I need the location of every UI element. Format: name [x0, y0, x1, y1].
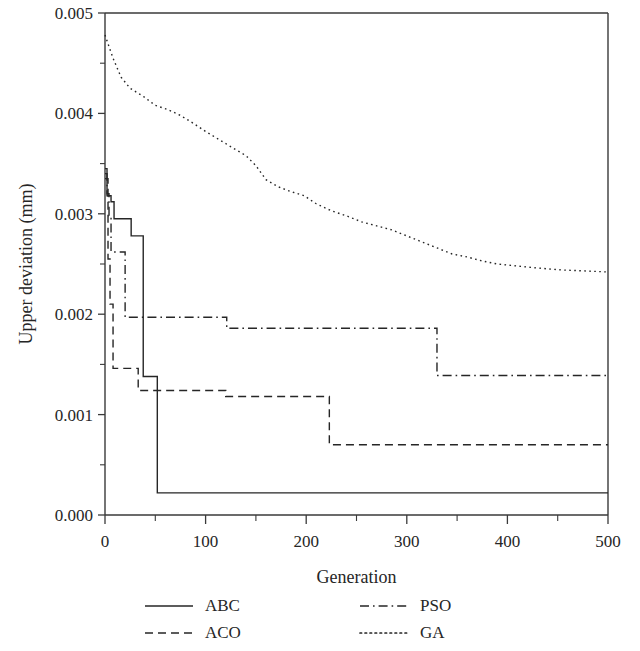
x-tick-label: 400 — [495, 532, 521, 551]
y-tick-label: 0.005 — [55, 4, 93, 23]
x-tick-label: 100 — [193, 532, 219, 551]
line-chart-svg: 0.0000.0010.0020.0030.0040.0050100200300… — [0, 0, 640, 651]
y-tick-label: 0.004 — [55, 104, 94, 123]
y-tick-label: 0.000 — [55, 506, 93, 525]
x-tick-label: 300 — [394, 532, 420, 551]
y-tick-label: 0.001 — [55, 406, 93, 425]
y-axis-title: Upper deviation (mm) — [16, 184, 37, 345]
series-line-pso — [105, 174, 608, 376]
y-tick-label: 0.003 — [55, 205, 93, 224]
x-tick-label: 500 — [595, 532, 621, 551]
axis-labels: 0.0000.0010.0020.0030.0040.0050100200300… — [16, 4, 621, 587]
y-tick-label: 0.002 — [55, 305, 93, 324]
legend-label-aco: ACO — [205, 623, 241, 642]
chart-legend: ABCPSOACOGA — [145, 596, 451, 642]
axes — [98, 13, 608, 524]
x-tick-label: 0 — [101, 532, 110, 551]
data-series — [105, 35, 608, 493]
x-axis-title: Generation — [317, 567, 397, 587]
series-line-aco — [105, 179, 608, 445]
legend-label-pso: PSO — [420, 596, 451, 615]
x-tick-label: 200 — [293, 532, 319, 551]
legend-label-abc: ABC — [205, 596, 240, 615]
chart-figure: 0.0000.0010.0020.0030.0040.0050100200300… — [0, 0, 640, 651]
series-line-ga — [105, 35, 608, 272]
legend-label-ga: GA — [420, 623, 445, 642]
